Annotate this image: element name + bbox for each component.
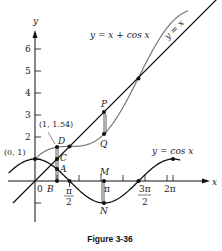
label-D: D (57, 136, 65, 146)
label-cos: y = cos x (151, 146, 193, 156)
figure-caption: Figure 3-36 (87, 234, 133, 244)
figure-3-36: y x 0 2 3 4 5 6 π 2 π 3π 2 2π (0, 0, 222, 251)
svg-text:π: π (66, 186, 72, 196)
y-tick-6: 6 (25, 44, 31, 54)
point-N (102, 201, 106, 205)
point-intersect-high (137, 77, 141, 81)
point-B (55, 179, 59, 183)
x-tick-pi: π (104, 184, 110, 194)
y-tick-2: 2 (25, 132, 31, 142)
svg-text:3π: 3π (139, 184, 151, 194)
x-tick-pi-over-2: π 2 (64, 186, 74, 207)
point-C (55, 157, 59, 161)
x-axis-arrow-icon (202, 179, 210, 184)
label-0-1: (0, 1) (4, 148, 26, 157)
label-B: B (46, 184, 54, 194)
label-A: A (59, 164, 67, 174)
label-N: N (99, 206, 109, 216)
y-tick-3: 3 (25, 110, 31, 120)
y-tick-5: 5 (25, 66, 31, 76)
label-M: M (99, 167, 110, 177)
point-0-1 (33, 157, 37, 161)
label-Q: Q (100, 139, 108, 149)
point-pi-over-2 (68, 179, 72, 183)
label-1-154: (1, 1.54) (39, 120, 73, 129)
point-A (55, 167, 59, 171)
svg-text:2: 2 (142, 197, 148, 207)
point-3pi-over-2 (137, 179, 141, 183)
point-M (102, 179, 106, 183)
axes: y x 0 2 3 4 5 6 π 2 π 3π 2 2π (8, 16, 217, 222)
label-P: P (100, 99, 108, 109)
y-tick-4: 4 (25, 88, 31, 98)
point-intersect-low (68, 145, 72, 149)
label-C: C (60, 153, 67, 163)
x-axis-label: x (212, 177, 217, 187)
point-Q (102, 132, 106, 136)
pointer-arrow (48, 132, 55, 144)
point-2pi (171, 157, 175, 161)
x-tick-2pi: 2π (164, 184, 176, 194)
svg-text:2: 2 (66, 197, 72, 207)
point-P (102, 110, 106, 114)
label-sum: y = x + cos x (89, 30, 150, 40)
x-tick-3pi-over-2: 3π 2 (138, 184, 151, 207)
origin-label: 0 (37, 184, 43, 194)
y-axis-arrow-icon (33, 30, 38, 38)
y-axis-label: y (32, 16, 39, 26)
